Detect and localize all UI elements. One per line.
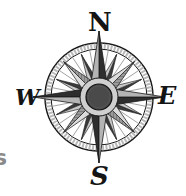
compass-rose-figure: s xyxy=(0,0,186,196)
west-label: W xyxy=(15,86,40,108)
south-label: S xyxy=(90,163,109,189)
east-label: E xyxy=(158,84,176,108)
north-label: N xyxy=(88,9,112,35)
